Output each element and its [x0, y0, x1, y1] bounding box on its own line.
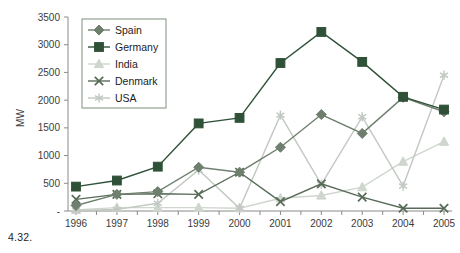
marker-triangle: [358, 182, 367, 190]
x-tick-label: 1997: [106, 218, 129, 229]
marker-square: [95, 43, 104, 52]
x-tick-label: 2001: [269, 218, 292, 229]
y-tick-label: 2500: [38, 67, 61, 78]
x-tick-label: 1998: [147, 218, 170, 229]
x-tick-label: 2003: [351, 218, 374, 229]
line-chart: -500100015002000250030003500MW1996199719…: [0, 0, 460, 253]
marker-diamond: [194, 162, 204, 172]
marker-square: [276, 59, 285, 68]
x-tick-label: 1996: [65, 218, 88, 229]
x-tick-label: 2002: [310, 218, 333, 229]
series-spain: [71, 92, 449, 210]
figure: -500100015002000250030003500MW1996199719…: [0, 0, 460, 253]
marker-square: [317, 28, 326, 37]
legend-label-usa: USA: [115, 92, 137, 104]
marker-square: [235, 113, 244, 122]
figure-caption: 4.32.: [8, 231, 32, 243]
series-line-spain: [76, 97, 444, 205]
legend-label-india: India: [115, 58, 138, 70]
x-tick-label: 1999: [188, 218, 211, 229]
y-tick-label: 500: [43, 178, 60, 189]
marker-square: [112, 176, 121, 185]
y-tick-label: 1000: [38, 150, 61, 161]
y-tick-label: -: [57, 206, 60, 217]
legend: SpainGermanyIndiaDenmarkUSA: [82, 19, 166, 108]
series-denmark: [72, 168, 448, 212]
y-tick-label: 3500: [38, 12, 61, 23]
marker-diamond: [153, 187, 163, 197]
marker-square: [153, 162, 162, 171]
marker-triangle: [439, 137, 448, 145]
marker-square: [194, 119, 203, 128]
y-tick-label: 2000: [38, 95, 61, 106]
x-tick-label: 2000: [228, 218, 251, 229]
y-tick-label: 3000: [38, 39, 61, 50]
marker-square: [358, 57, 367, 66]
legend-label-denmark: Denmark: [115, 75, 158, 87]
marker-triangle: [399, 157, 408, 165]
marker-square: [440, 105, 449, 114]
series-india: [71, 137, 448, 214]
marker-square: [399, 92, 408, 101]
x-tick-label: 2005: [433, 218, 456, 229]
y-tick-label: 1500: [38, 122, 61, 133]
legend-label-spain: Spain: [115, 24, 142, 36]
x-tick-label: 2004: [392, 218, 415, 229]
legend-item-germany[interactable]: Germany: [88, 41, 159, 53]
marker-square: [72, 182, 81, 191]
y-axis-title: MW: [15, 109, 26, 127]
legend-label-germany: Germany: [115, 41, 159, 53]
